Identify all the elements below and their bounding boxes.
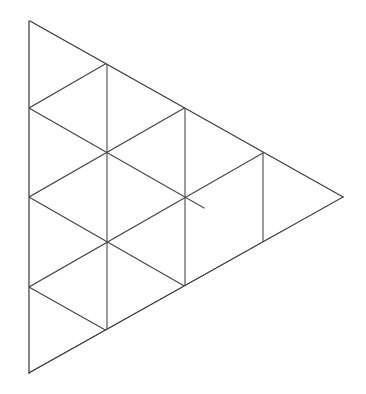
diag-up-3: [29, 142, 282, 287]
diag-down-1: [29, 108, 204, 208]
diag-up-2: [29, 52, 282, 197]
diag-down-2: [29, 197, 282, 342]
diag-up-1: [29, 7, 204, 108]
diag-down-3: [29, 287, 126, 342]
triangular-lattice-figure: [0, 0, 366, 394]
figure-canvas: [0, 0, 366, 394]
upper-right-edge: [30, 21, 343, 197]
lattice-interior-group: [29, 7, 282, 373]
